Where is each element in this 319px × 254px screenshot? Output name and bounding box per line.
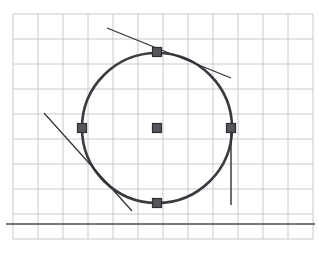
right-point	[227, 124, 236, 133]
figure-svg	[0, 0, 319, 254]
top-point	[153, 48, 162, 57]
bottom-point	[153, 199, 162, 208]
center-point	[153, 124, 162, 133]
figure-canvas	[0, 0, 319, 254]
left-point	[78, 124, 87, 133]
